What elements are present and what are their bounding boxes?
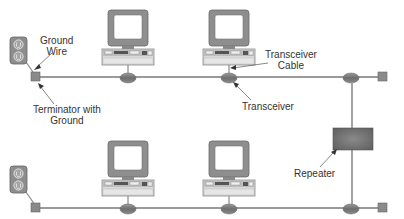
label-repeater: Repeater	[294, 168, 335, 179]
label-transceiver: Transceiver	[242, 101, 294, 112]
transceiver-upper-1	[120, 73, 136, 83]
repeater-box	[333, 128, 373, 150]
label-ground-wire: Ground Wire	[40, 35, 73, 57]
terminator-left-upper	[31, 72, 40, 81]
computer-icon-lower-1	[102, 141, 154, 196]
label-transceiver-cable: Transceiver Cable	[265, 49, 317, 71]
transceiver-lower-2	[221, 204, 237, 214]
computer-icon-upper-1	[102, 10, 154, 65]
computer-icon-lower-2	[203, 141, 255, 196]
terminator-right-upper	[378, 72, 387, 81]
transceiver-lower-3	[343, 204, 359, 214]
terminator-right-lower	[378, 203, 387, 212]
terminator-left-lower	[31, 203, 40, 212]
computer-icon-upper-2	[203, 10, 255, 65]
transceiver-upper-3	[343, 73, 359, 83]
outlet-icon-upper	[10, 37, 27, 64]
transceiver-upper-2	[221, 73, 237, 83]
transceiver-lower-1	[120, 204, 136, 214]
outlet-icon-lower	[10, 166, 27, 193]
label-terminator: Terminator with Ground	[33, 104, 101, 126]
